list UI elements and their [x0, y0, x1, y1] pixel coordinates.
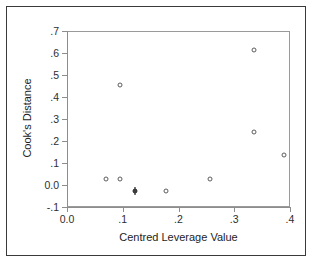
x-axis-tick-mark	[123, 207, 124, 212]
data-point	[251, 47, 256, 52]
data-point	[118, 176, 123, 181]
data-point	[103, 176, 108, 181]
y-axis-tick-mark	[62, 163, 67, 164]
x-axis-tick-label: .2	[159, 214, 199, 225]
x-axis-tick-label: .3	[214, 214, 254, 225]
data-point	[117, 83, 122, 88]
y-axis-tick-mark	[62, 97, 67, 98]
y-axis-title: Cook's Distance	[21, 48, 33, 188]
x-axis-tick-mark	[67, 207, 68, 212]
x-axis-tick-mark	[290, 207, 291, 212]
x-axis-tick-mark	[234, 207, 235, 212]
data-point	[164, 188, 169, 193]
data-point	[252, 129, 257, 134]
x-axis-tick-label: 0.0	[47, 214, 87, 225]
plot-panel	[67, 31, 290, 207]
x-axis-title: Centred Leverage Value	[67, 231, 290, 243]
y-axis-tick-label: .7	[26, 26, 59, 37]
scatter-plot-figure: -.10.0.1.2.3.4.5.6.7 0.0.1.2.3.4 Centred…	[0, 0, 314, 264]
y-axis-tick-mark	[62, 185, 67, 186]
data-point	[282, 153, 287, 158]
x-axis-tick-label: .4	[270, 214, 310, 225]
y-axis-tick-mark	[62, 31, 67, 32]
y-axis-tick-mark	[62, 141, 67, 142]
y-axis-tick-mark	[62, 119, 67, 120]
y-axis-tick-mark	[62, 53, 67, 54]
y-axis-line	[67, 31, 68, 207]
data-point	[207, 176, 212, 181]
x-axis-tick-label: .1	[103, 214, 143, 225]
y-axis-tick-label: -.1	[26, 202, 59, 213]
y-axis-tick-mark	[62, 75, 67, 76]
data-point	[133, 189, 138, 194]
data-point-layer	[68, 32, 289, 206]
x-axis-tick-mark	[179, 207, 180, 212]
